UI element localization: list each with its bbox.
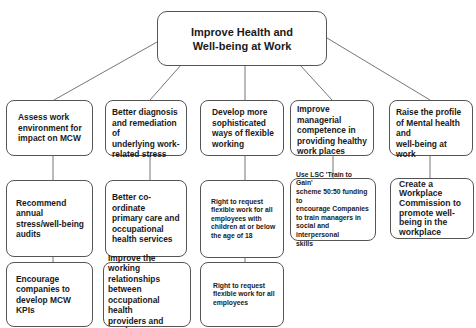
root-title: Improve Health and Well-being at Work: [191, 25, 293, 53]
connector-root-col2: [150, 65, 181, 100]
connector-root-col5: [327, 38, 430, 100]
connector-root-col1: [54, 42, 157, 100]
node-train-to-gain: Use LSC 'Train to Gain' scheme 50:50 fun…: [290, 178, 376, 241]
node-raise-mental-health-profile: Raise the profile of Mental health and w…: [389, 100, 473, 156]
node-workplace-commission: Create a Workplace Commission to promote…: [390, 178, 474, 239]
node-flexible-work-all: Right to request flexible work for all e…: [200, 262, 284, 327]
node-better-diagnosis: Better diagnosis and remediation of unde…: [105, 100, 187, 156]
node-flexible-working: Develop more sophisticated ways of flexi…: [200, 100, 284, 156]
root-node: Improve Health and Well-being at Work: [157, 11, 327, 66]
node-flexible-work-parents: Right to request flexible work for all e…: [200, 180, 284, 258]
node-encourage-kpis: Encourage companies to develop MCW KPIs: [6, 262, 93, 327]
node-assess-work-environment: Assess work environment for impact on MC…: [6, 100, 93, 156]
node-improve-working-relationships: Improve the working relationships betwee…: [103, 262, 191, 327]
node-coordinate-primary-care: Better co-ordinate primary care and occu…: [105, 180, 187, 257]
connector-root-col4: [300, 65, 332, 100]
node-recommend-audits: Recommend annual stress/well-being audit…: [6, 180, 93, 257]
node-managerial-competence: Improve managerial competence in providi…: [290, 100, 374, 156]
